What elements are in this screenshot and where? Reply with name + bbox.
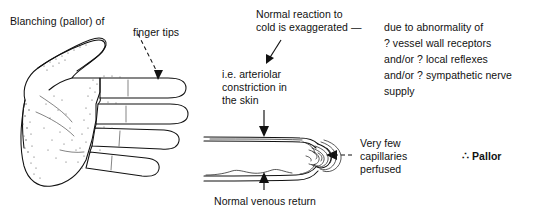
finger-section-drawing — [204, 137, 341, 181]
venous-return-arrow — [259, 172, 269, 190]
label-abnormality-line4: and/or ? sympathetic nerve — [384, 69, 512, 82]
exaggerated-reaction-arrow — [266, 40, 281, 64]
label-normal-reaction-line2: cold is exaggerated — — [256, 21, 362, 34]
figure-canvas: Blanching (pallor) of finger tips Normal… — [0, 0, 537, 213]
label-arteriolar-line1: i.e. arteriolar — [222, 68, 281, 81]
capillary-pointer-arrow — [326, 150, 352, 160]
label-arteriolar-line2: constriction in — [222, 81, 287, 94]
label-pallor-conclusion: ∴ Pallor — [462, 150, 502, 163]
finger-tips-arrow — [138, 34, 163, 80]
label-abnormality-line3: and/or ? local reflexes — [384, 53, 488, 66]
label-arteriolar-line3: the skin — [222, 94, 259, 107]
hand-drawing — [21, 38, 188, 186]
hand-shading — [22, 44, 120, 178]
label-finger-tips: finger tips — [133, 26, 179, 39]
label-blanching: Blanching (pallor) of — [10, 15, 104, 28]
label-normal-reaction-line1: Normal reaction to — [256, 8, 343, 21]
label-abnormality-line5: supply — [384, 85, 415, 98]
label-very-few-line3: perfused — [360, 163, 401, 176]
label-very-few-line2: capillaries — [360, 150, 407, 163]
label-very-few-line1: Very few — [360, 137, 401, 150]
label-venous-return: Normal venous return — [214, 195, 316, 208]
label-abnormality-line2: ? vessel wall receptors — [384, 37, 491, 50]
label-abnormality-line1: due to abnormality of — [384, 21, 483, 34]
arterial-inflow-arrow — [259, 110, 269, 137]
